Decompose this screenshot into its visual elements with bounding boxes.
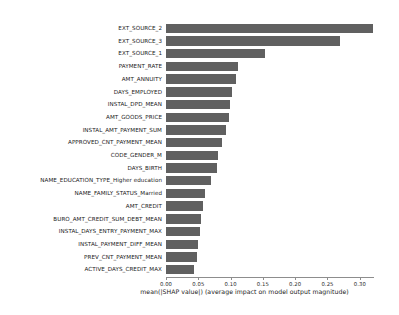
bar-category-label: EXT_SOURCE_3: [118, 35, 162, 48]
x-axis-tick-label: 0.30: [345, 281, 375, 287]
bar-category-label: INSTAL_PAYMENT_DIFF_MEAN: [78, 238, 162, 251]
bar-rect: [166, 151, 218, 160]
x-axis-tick: [166, 277, 167, 280]
bar-rect: [166, 214, 201, 223]
bar-rect: [166, 176, 211, 185]
x-axis-tick: [231, 277, 232, 280]
bar-category-label: EXT_SOURCE_1: [118, 47, 162, 60]
bar-rect: [166, 49, 265, 58]
bar-row: NAME_FAMILY_STATUS_Married: [166, 187, 374, 200]
bar-category-label: PAYMENT_RATE: [119, 60, 162, 73]
bar-category-label: INSTAL_DPD_MEAN: [108, 98, 162, 111]
bar-category-label: EXT_SOURCE_2: [118, 22, 162, 35]
bar-category-label: APPROVED_CNT_PAYMENT_MEAN: [68, 136, 162, 149]
bar-category-label: DAYS_BIRTH: [127, 162, 162, 175]
bar-row: INSTAL_DAYS_ENTRY_PAYMENT_MAX: [166, 225, 374, 238]
x-axis-tick-label: 0.05: [183, 281, 213, 287]
bar-row: BURO_AMT_CREDIT_SUM_DEBT_MEAN: [166, 213, 374, 226]
bar-rect: [166, 36, 340, 45]
x-axis-tick-label: 0.15: [248, 281, 278, 287]
bar-rect: [166, 113, 229, 122]
bar-rect: [166, 24, 373, 33]
bar-category-label: NAME_FAMILY_STATUS_Married: [75, 187, 162, 200]
x-axis-tick-label: 0.10: [216, 281, 246, 287]
bar-row: PAYMENT_RATE: [166, 60, 374, 73]
bar-row: APPROVED_CNT_PAYMENT_MEAN: [166, 136, 374, 149]
bar-rect: [166, 227, 200, 236]
bar-category-label: BURO_AMT_CREDIT_SUM_DEBT_MEAN: [53, 213, 162, 226]
bar-rect: [166, 62, 238, 71]
bar-row: PREV_CNT_PAYMENT_MEAN: [166, 251, 374, 264]
x-axis-tick-label: 0.00: [151, 281, 181, 287]
bar-row: AMT_ANNUITY: [166, 73, 374, 86]
bar-row: EXT_SOURCE_2: [166, 22, 374, 35]
x-axis-title: mean(|SHAP value|) (average impact on mo…: [0, 288, 399, 295]
bar-row: EXT_SOURCE_1: [166, 47, 374, 60]
bar-row: EXT_SOURCE_3: [166, 35, 374, 48]
x-axis-tick: [295, 277, 296, 280]
bar-row: AMT_CREDIT: [166, 200, 374, 213]
x-axis-tick: [263, 277, 264, 280]
bar-category-label: CODE_GENDER_M: [111, 149, 162, 162]
bar-rect: [166, 125, 226, 134]
bar-rect: [166, 163, 217, 172]
x-axis-line: [166, 277, 374, 278]
bar-rect: [166, 100, 230, 109]
bar-category-label: NAME_EDUCATION_TYPE_Higher education: [40, 174, 162, 187]
bar-category-label: AMT_GOODS_PRICE: [106, 111, 162, 124]
bar-rect: [166, 240, 198, 249]
bar-category-label: INSTAL_AMT_PAYMENT_SUM: [83, 124, 162, 137]
bar-category-label: AMT_CREDIT: [126, 200, 162, 213]
bar-row: AMT_GOODS_PRICE: [166, 111, 374, 124]
bar-row: DAYS_EMPLOYED: [166, 86, 374, 99]
x-axis-tick: [327, 277, 328, 280]
bar-row: INSTAL_PAYMENT_DIFF_MEAN: [166, 238, 374, 251]
bar-row: ACTIVE_DAYS_CREDIT_MAX: [166, 263, 374, 276]
bar-rect: [166, 265, 194, 274]
x-axis-tick: [360, 277, 361, 280]
bar-category-label: ACTIVE_DAYS_CREDIT_MAX: [84, 263, 162, 276]
bar-rect: [166, 201, 203, 210]
bar-rect: [166, 87, 232, 96]
bar-row: CODE_GENDER_M: [166, 149, 374, 162]
x-axis-tick-label: 0.25: [312, 281, 342, 287]
bar-row: NAME_EDUCATION_TYPE_Higher education: [166, 174, 374, 187]
bar-rect: [166, 74, 236, 83]
bar-rect: [166, 138, 222, 147]
bar-rect: [166, 189, 205, 198]
bar-category-label: DAYS_EMPLOYED: [114, 86, 162, 99]
bar-row: INSTAL_AMT_PAYMENT_SUM: [166, 124, 374, 137]
bar-category-label: PREV_CNT_PAYMENT_MEAN: [84, 251, 162, 264]
bar-category-label: AMT_ANNUITY: [122, 73, 162, 86]
bar-category-label: INSTAL_DAYS_ENTRY_PAYMENT_MAX: [59, 225, 162, 238]
bar-rect: [166, 252, 197, 261]
x-axis-tick: [198, 277, 199, 280]
x-axis-tick-label: 0.20: [280, 281, 310, 287]
bar-row: INSTAL_DPD_MEAN: [166, 98, 374, 111]
plot-area: EXT_SOURCE_2EXT_SOURCE_3EXT_SOURCE_1PAYM…: [166, 22, 374, 276]
bar-row: DAYS_BIRTH: [166, 162, 374, 175]
shap-feature-importance-chart: EXT_SOURCE_2EXT_SOURCE_3EXT_SOURCE_1PAYM…: [0, 0, 399, 315]
